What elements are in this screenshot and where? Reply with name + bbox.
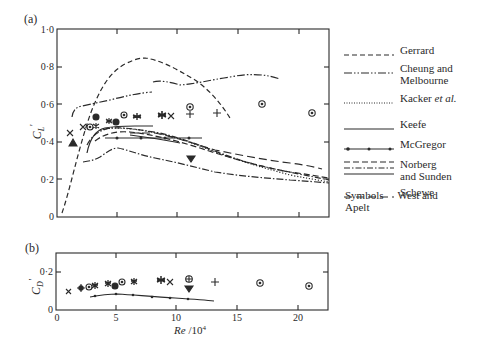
- legend-item-keefe: Keefe: [342, 118, 478, 138]
- marker-circle-dot: [306, 283, 312, 289]
- x-axis-label: Re /104: [173, 324, 206, 336]
- legend-label: Norberg: [400, 158, 436, 170]
- marker-circle-dot: [257, 280, 263, 286]
- symbols-label: Symbols: [345, 189, 384, 201]
- dashed-line-icon: [344, 50, 394, 60]
- curve-cheung-melbourne-2: [153, 75, 280, 85]
- marker-circle-dot: [87, 124, 93, 130]
- curve-norberg-sunden-a: [87, 128, 329, 180]
- panel-a-yticks: 0 0·2 0·4 0·6 0·8 1·0: [41, 24, 54, 222]
- marker-star: [93, 123, 99, 129]
- ytick-1-0: 1·0: [41, 24, 54, 35]
- svg-text:CD': CD': [27, 278, 45, 295]
- ytick-0-6: 0·6: [41, 99, 54, 110]
- marker-filled-circle: [93, 114, 99, 120]
- solid-line-icon: [344, 124, 394, 134]
- legend-item-mcgregor: McGregor: [342, 138, 478, 158]
- legend-label-line2: Melbourne: [400, 74, 448, 86]
- legend-item-gerrard: Gerrard: [342, 44, 478, 62]
- marker-x: [80, 124, 86, 130]
- marker-circle-plus: [186, 276, 193, 283]
- xtick-5: 5: [114, 312, 119, 323]
- ytick-0-8: 0·8: [41, 61, 54, 72]
- legend: Gerrard Cheung andMelbourne Kacker et al…: [342, 44, 478, 206]
- marker-triangle-down: [185, 286, 193, 292]
- marker-circle-dot: [187, 104, 193, 110]
- b-ytick-0: 0: [48, 304, 53, 315]
- marker-triangle-up: [69, 139, 77, 146]
- marker-star: [106, 118, 112, 124]
- marker-triangle-down: [187, 156, 195, 162]
- marker-x: [67, 130, 73, 136]
- panel-b-xticks: 0 5 10 15 20: [55, 312, 304, 323]
- marker-circle-dot: [259, 101, 265, 107]
- legend-item-kacker: Kacker et al.: [342, 92, 478, 118]
- marker-plus: [213, 109, 221, 117]
- curve-cheung-melbourne-1: [72, 92, 152, 117]
- panel-b-symbols: [66, 276, 312, 294]
- marker-star: [133, 113, 141, 120]
- marker-x: [66, 289, 71, 294]
- marker-x: [168, 113, 174, 119]
- panel-a-frame: [57, 29, 329, 217]
- panel-b-frame: [56, 253, 328, 310]
- marker-star: [105, 280, 111, 287]
- xtick-0: 0: [55, 312, 60, 323]
- svg-text:CL': CL': [28, 124, 46, 139]
- panel-b-label: (b): [25, 241, 39, 255]
- marker-plus: [186, 111, 194, 118]
- marker-circle-dot: [309, 110, 315, 116]
- marker-x: [167, 279, 173, 285]
- solid-line-markers-icon: [344, 144, 394, 154]
- panel-b-ylabel: CD': [27, 278, 45, 295]
- marker-star: [131, 278, 137, 285]
- marker-filled-circle: [113, 119, 119, 125]
- marker-circle-dot: [121, 112, 127, 118]
- marker-plus: [211, 278, 219, 286]
- panel-a-ylabel: CL': [28, 124, 46, 139]
- dotted-line-icon: [344, 98, 394, 108]
- ytick-0: 0: [49, 211, 54, 222]
- panel-a-label: (a): [24, 12, 37, 26]
- multi-dash-line-icon: [344, 160, 394, 176]
- panel-a-symbols: [67, 101, 315, 162]
- marker-star-filled: [77, 284, 85, 292]
- legend-label-italic: et al.: [435, 92, 457, 104]
- marker-star: [92, 282, 98, 289]
- xtick-10: 10: [171, 312, 181, 323]
- marker-star: [157, 276, 165, 284]
- panel-a-curves: [62, 58, 329, 213]
- b-ytick-0-2: 0·2: [40, 266, 53, 277]
- legend-label: Kacker: [400, 92, 435, 104]
- panel-b: [56, 253, 328, 310]
- marker-circle-dot: [119, 279, 125, 285]
- curve-lower-dash-dot: [83, 148, 329, 183]
- legend-item-cheung-melbourne: Cheung andMelbourne: [342, 62, 478, 92]
- marker-star: [158, 111, 166, 119]
- xtick-15: 15: [232, 312, 242, 323]
- legend-label-line2: and Sunden: [400, 170, 452, 182]
- legend-item-norberg-sunden: Norbergand Sunden: [342, 158, 478, 186]
- xtick-20: 20: [293, 312, 303, 323]
- dash-dot-dot-line-icon: [344, 68, 394, 78]
- marker-filled-circle: [112, 283, 118, 289]
- legend-label: Cheung and: [400, 62, 453, 74]
- panel-a: [57, 29, 329, 217]
- marker-circle-dot: [86, 284, 92, 290]
- ytick-0-2: 0·2: [41, 174, 54, 185]
- symbols-note: SymbolsWest and Apelt: [345, 189, 478, 213]
